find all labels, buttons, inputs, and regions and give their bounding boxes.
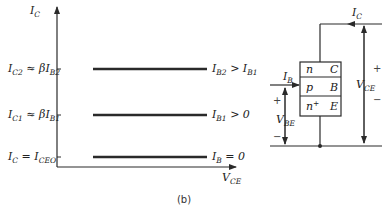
layer-type-nplus: n+ [306,99,319,113]
vce-plus: + [373,63,381,74]
vce-minus: − [373,94,381,105]
label-iceo: IC = ICEO [7,150,56,165]
x-axis-label: VCE [222,171,242,186]
label-ic2: IC2 ≈ βIB2 [7,62,60,77]
characteristic-graph: IC VCE IC2 ≈ βIB2 IC1 ≈ βIB1 IC = ICEO I… [7,4,258,186]
label-ic1: IC1 ≈ βIB1 [7,108,60,123]
label-ib2: IB2 > IB1 [211,62,258,77]
vbe-minus: − [273,131,281,142]
ic-arrow-icon [347,21,355,27]
ib-label: IB [282,70,293,85]
vbe-plus: + [273,95,281,106]
layer-type-p: p [306,81,313,94]
terminal-e: E [329,100,338,113]
ic-label: IC [351,6,362,21]
vce-label: VCE [356,78,376,93]
transistor-circuit: IC n C p B n+ E IB + VBE − + VCE − [270,6,382,148]
figure-caption: (b) [177,194,191,205]
label-ib0: IB = 0 [211,150,245,165]
label-ib1: IB1 > 0 [211,108,250,123]
layer-type-n: n [306,63,313,76]
terminal-b: B [329,81,338,94]
bjt-diagram: IC VCE IC2 ≈ βIB2 IC1 ≈ βIB1 IC = ICEO I… [0,0,387,210]
terminal-c: C [330,63,339,76]
y-axis-label: IC [29,4,40,19]
vbe-label: VBE [276,113,295,128]
